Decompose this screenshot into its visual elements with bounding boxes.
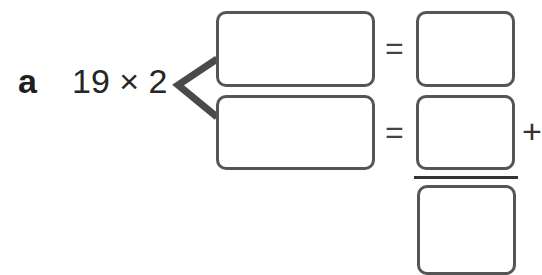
multiplication-expression: 19 × 2 bbox=[72, 62, 167, 101]
split-bracket-icon bbox=[170, 55, 220, 125]
result-top-input[interactable] bbox=[416, 11, 515, 87]
split-top-input[interactable] bbox=[216, 11, 375, 87]
split-bottom-input[interactable] bbox=[216, 95, 375, 170]
equals-sign-top: = bbox=[385, 32, 404, 64]
sum-line bbox=[414, 176, 518, 179]
equals-sign-bottom: = bbox=[385, 116, 404, 148]
problem-label: a bbox=[18, 62, 37, 101]
result-middle-input[interactable] bbox=[416, 95, 515, 170]
result-total-input[interactable] bbox=[417, 185, 516, 275]
plus-sign: + bbox=[522, 114, 542, 148]
